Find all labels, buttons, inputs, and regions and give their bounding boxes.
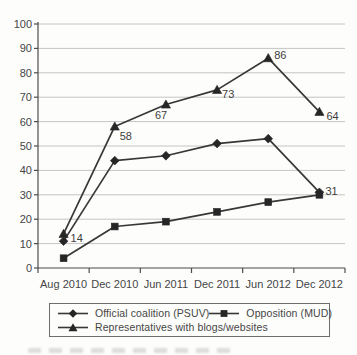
y-axis-label: 20 <box>20 213 32 225</box>
legend-row-2: Representatives with blogs/websites <box>58 321 323 333</box>
y-axis-label: 90 <box>20 42 32 54</box>
y-axis-label: 50 <box>20 140 32 152</box>
x-axis-label: Jun 2011 <box>144 278 188 290</box>
legend-label-blogs: Representatives with blogs/websites <box>95 321 268 333</box>
y-axis-label: 10 <box>20 238 32 250</box>
blogs-triangle-marker-icon <box>58 322 88 333</box>
x-axis-label: Dec 2011 <box>194 278 240 290</box>
series-diamond <box>59 134 324 245</box>
data-point-square <box>316 191 323 198</box>
data-point-triangle <box>212 85 221 93</box>
data-point-diamond <box>110 156 119 165</box>
data-point-triangle <box>264 54 273 62</box>
point-label: 58 <box>120 130 132 142</box>
legend-label-mud: Opposition (MUD) <box>246 307 332 319</box>
legend-item-psuv: Official coalition (PSUV) <box>58 307 209 319</box>
y-axis-label: 80 <box>20 67 32 79</box>
cropped-caption-artifact <box>28 348 233 353</box>
x-axis-label: Jun 2012 <box>246 278 291 290</box>
chart-figure: 0102030405060708090100Aug 2010Dec 2010Ju… <box>0 0 357 355</box>
data-point-triangle <box>59 229 68 237</box>
data-point-square <box>214 208 221 215</box>
x-axis-label: Dec 2010 <box>91 278 138 290</box>
data-point-diamond <box>162 151 171 160</box>
y-axis-label: 40 <box>20 164 32 176</box>
chart-legend: Official coalition (PSUV) Opposition (MU… <box>49 303 330 337</box>
data-point-square <box>265 199 272 206</box>
y-axis-label: 60 <box>20 116 32 128</box>
legend-label-psuv: Official coalition (PSUV) <box>95 307 209 319</box>
mud-square-marker-icon <box>209 308 239 319</box>
y-axis-label: 70 <box>20 91 32 103</box>
point-label: 73 <box>222 88 234 100</box>
data-point-diamond <box>59 237 68 246</box>
legend-row-1: Official coalition (PSUV) Opposition (MU… <box>58 307 323 319</box>
data-point-diamond <box>213 139 222 148</box>
psuv-diamond-marker-icon <box>58 308 88 319</box>
y-axis-label: 0 <box>26 262 32 274</box>
point-label: 86 <box>274 49 286 61</box>
series-square <box>60 191 323 261</box>
point-label: 67 <box>155 109 167 121</box>
point-label: 31 <box>325 185 337 197</box>
legend-item-mud: Opposition (MUD) <box>209 307 332 319</box>
line-chart: 0102030405060708090100Aug 2010Dec 2010Ju… <box>0 0 357 355</box>
data-point-square <box>111 223 118 230</box>
y-axis-label: 100 <box>14 18 32 30</box>
series-line <box>64 195 320 258</box>
x-axis-label: Dec 2012 <box>296 278 343 290</box>
legend-item-blogs: Representatives with blogs/websites <box>58 321 268 333</box>
y-axis-label: 30 <box>20 189 32 201</box>
data-point-square <box>60 255 67 262</box>
x-axis-label: Aug 2010 <box>40 278 87 290</box>
point-label: 14 <box>71 232 83 244</box>
data-point-square <box>163 218 170 225</box>
point-label: 64 <box>326 110 338 122</box>
